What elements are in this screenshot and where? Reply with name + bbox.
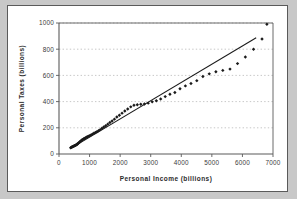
data-point: [129, 105, 132, 108]
data-point: [120, 111, 123, 114]
x-axis-tick-label: 0: [57, 159, 61, 166]
y-axis-tick-label: 200: [43, 124, 55, 131]
data-point: [136, 103, 139, 106]
data-point: [184, 84, 187, 87]
data-point: [155, 99, 158, 102]
x-axis-tick-label: 7000: [265, 159, 280, 166]
x-axis-tick-label: 1000: [82, 159, 97, 166]
x-axis-tick-label: 5000: [204, 159, 219, 166]
x-axis-tick-label: 6000: [235, 159, 250, 166]
data-point-group: [69, 23, 269, 150]
data-point: [115, 115, 118, 118]
data-point: [189, 82, 192, 85]
x-axis-tick-label: 4000: [174, 159, 189, 166]
data-point: [118, 114, 121, 117]
x-axis-tick-label: 3000: [143, 159, 158, 166]
y-axis-title: Personal Taxes (billions): [18, 45, 26, 132]
y-axis-tick-label: 1000: [39, 19, 54, 26]
data-point: [159, 97, 162, 100]
y-axis-tick-label: 600: [43, 72, 55, 79]
y-axis-tick-label: 800: [43, 46, 55, 53]
data-point: [236, 62, 239, 65]
data-point: [173, 91, 176, 94]
data-point: [168, 93, 171, 96]
data-point: [214, 70, 217, 73]
data-point: [260, 37, 263, 40]
y-axis-tick-label: 400: [43, 98, 55, 105]
data-point: [228, 67, 231, 70]
data-point: [178, 87, 181, 90]
data-point: [164, 95, 167, 98]
y-axis-tick-label: 0: [50, 150, 54, 157]
chart-panel: 0200400600800100001000200030004000500060…: [7, 5, 288, 192]
data-point: [132, 104, 135, 107]
data-point: [126, 107, 129, 110]
x-axis-title: Personal Income (billions): [120, 175, 213, 183]
data-point: [244, 55, 247, 58]
x-axis-tick-label: 2000: [113, 159, 128, 166]
data-point: [123, 109, 126, 112]
scatter-chart: 0200400600800100001000200030004000500060…: [8, 6, 287, 191]
data-point: [252, 48, 255, 51]
data-point: [113, 117, 116, 120]
data-point: [221, 69, 224, 72]
data-point: [195, 79, 198, 82]
